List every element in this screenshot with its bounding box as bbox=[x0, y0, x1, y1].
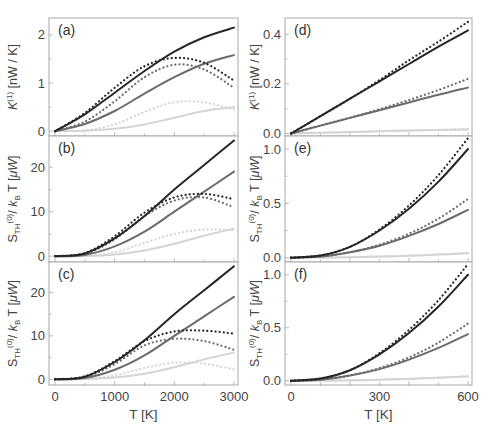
y-axis-label: K(1) [nW / K] bbox=[5, 44, 20, 110]
x-tick-label: 300 bbox=[369, 389, 391, 404]
panel-label: (f) bbox=[294, 266, 307, 282]
y-tick-label: 1.0 bbox=[263, 142, 281, 157]
panel-c: 01020(c)STH(0)/ kB T [μW]0100020003000T … bbox=[5, 262, 248, 422]
panel-label: (a) bbox=[58, 22, 75, 38]
plot-frame bbox=[285, 262, 472, 385]
y-tick-label: 0 bbox=[38, 249, 45, 264]
y-tick-label: 10 bbox=[31, 328, 45, 343]
x-tick-label: 1000 bbox=[100, 389, 129, 404]
y-tick-label: 1.0 bbox=[263, 267, 281, 282]
y-axis-label: STH(0)/ kB T [μW] bbox=[247, 155, 264, 242]
panel-b: 01020(b)STH(0)/ kB T [μW] bbox=[5, 136, 238, 264]
y-tick-label: 0 bbox=[38, 124, 45, 139]
plot-frame bbox=[285, 136, 472, 262]
y-tick-label: 1 bbox=[38, 76, 45, 91]
panel-f: 0.00.51.0(f)STH(0)/ kB T [μW]0300600T [K… bbox=[247, 262, 479, 422]
y-tick-label: 0.0 bbox=[263, 250, 281, 265]
y-tick-label: 2 bbox=[38, 27, 45, 42]
y-tick-label: 20 bbox=[31, 160, 45, 175]
x-tick-label: 0 bbox=[51, 389, 58, 404]
plot-frame bbox=[285, 18, 472, 136]
figure: 012(a)K(1) [nW / K] 01020(b)STH(0)/ kB T… bbox=[0, 0, 494, 427]
y-tick-label: 0 bbox=[38, 372, 45, 387]
panel-a: 012(a)K(1) [nW / K] bbox=[5, 18, 238, 139]
panel-label: (e) bbox=[294, 140, 311, 156]
x-axis-label: T [K] bbox=[364, 407, 392, 422]
panel-d: 0.00.20.4(d)K(1) [nW / K] bbox=[247, 18, 472, 141]
y-tick-label: 0.0 bbox=[263, 126, 281, 141]
x-tick-label: 600 bbox=[457, 389, 479, 404]
y-axis-label: STH(0)/ kB T [μW] bbox=[5, 155, 22, 242]
panel-label: (d) bbox=[294, 22, 311, 38]
x-tick-label: 2000 bbox=[160, 389, 189, 404]
panel-e: 0.00.51.0(e)STH(0)/ kB T [μW] bbox=[247, 136, 472, 265]
y-tick-label: 10 bbox=[31, 204, 45, 219]
plot-frame bbox=[49, 262, 238, 385]
x-tick-label: 3000 bbox=[220, 389, 249, 404]
y-tick-label: 20 bbox=[31, 285, 45, 300]
y-axis-label: STH(0)/ kB T [μW] bbox=[5, 280, 22, 367]
y-tick-label: 0.2 bbox=[263, 76, 281, 91]
panel-label: (c) bbox=[58, 266, 74, 282]
y-tick-label: 0.4 bbox=[263, 27, 281, 42]
y-tick-label: 0.0 bbox=[263, 373, 281, 388]
panel-label: (b) bbox=[58, 140, 75, 156]
y-axis-label: STH(0)/ kB T [μW] bbox=[247, 280, 264, 367]
y-tick-label: 0.5 bbox=[263, 320, 281, 335]
x-tick-label: 0 bbox=[287, 389, 294, 404]
x-axis-label: T [K] bbox=[129, 407, 157, 422]
y-axis-label: K(1) [nW / K] bbox=[247, 44, 262, 110]
y-tick-label: 0.5 bbox=[263, 196, 281, 211]
